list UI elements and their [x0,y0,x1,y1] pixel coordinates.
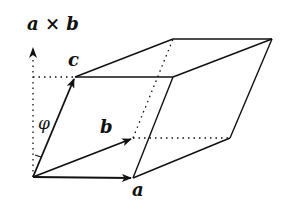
hidden-edges [33,39,230,138]
vector-b [33,139,131,177]
edge-a-to-ab [133,138,230,178]
edge-ac-to-abc [173,39,272,77]
label-c: c [68,49,79,70]
edge-c-to-bc [75,39,173,77]
angle-tick [35,155,41,157]
cross-product-axis [29,47,37,177]
label-angle-phi: φ [38,113,50,133]
visible-edges [75,39,272,178]
edge-a-to-ac [133,77,173,178]
label-cross-product: a × b [27,13,79,34]
parallelepiped-diagram: a × b c b a φ [0,0,286,209]
edge-abc-to-ab [230,39,272,138]
label-b: b [100,116,113,137]
edge-b-to-bc [133,39,173,138]
cross-product-arrowhead-icon [29,47,37,58]
label-a: a [132,179,144,200]
vector-a [33,177,131,178]
